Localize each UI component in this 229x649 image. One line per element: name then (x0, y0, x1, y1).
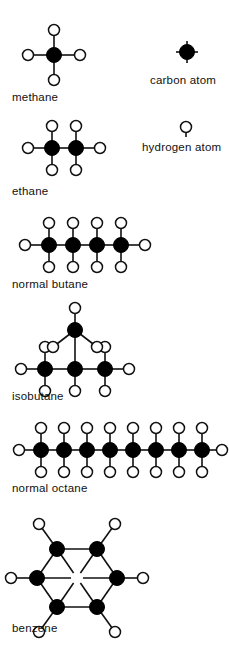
hydrogen-atom (174, 423, 185, 434)
hydrogen-atom (82, 467, 93, 478)
hydrogen-atom (59, 467, 70, 478)
hydrogen-atom (48, 342, 59, 353)
molecule-label: normal octane (12, 482, 87, 494)
carbon-atom (69, 141, 84, 156)
carbon-atom (180, 45, 195, 60)
hydrogen-atom (140, 240, 151, 251)
hydrogen-atom (105, 423, 116, 434)
carbon-atom (34, 443, 49, 458)
legend-carbon-label: carbon atom (150, 74, 216, 86)
carbon-atom (114, 238, 129, 253)
carbon-atom (90, 542, 105, 557)
hydrogen-atom (138, 573, 149, 584)
bond-group (28, 126, 100, 170)
hydrogen-atom (36, 467, 47, 478)
carbon-atom (172, 443, 187, 458)
hydrogen-atom (116, 218, 127, 229)
hydrogen-atom (128, 423, 139, 434)
legend-hydrogen: hydrogen atom (142, 122, 221, 154)
hydrogen-atom (44, 218, 55, 229)
legend-hydrogen-label: hydrogen atom (142, 141, 221, 153)
hydrogen-atom (95, 143, 106, 154)
molecule-ethane: ethane (12, 121, 106, 198)
legend-carbon: carbon atom (150, 41, 216, 86)
carbon-atom (149, 443, 164, 458)
hydrocarbon-diagram: methaneethanenormal butaneisobutanenorma… (0, 0, 229, 649)
hydrogen-atom (75, 50, 86, 61)
carbon-atom (38, 362, 53, 377)
hydrogen-atom (20, 240, 31, 251)
hydrogen-atom (110, 627, 121, 638)
hydrogen-atom (92, 342, 103, 353)
hydrogen-atom (197, 467, 208, 478)
carbon-atom (45, 141, 60, 156)
molecule-normal-octane: normal octane (12, 423, 228, 495)
hydrogen-atom (71, 165, 82, 176)
molecule-methane: methane (12, 25, 86, 104)
carbon-atom (80, 443, 95, 458)
hydrogen-atom (128, 467, 139, 478)
carbon-atom (68, 362, 83, 377)
carbon-atom (110, 571, 125, 586)
molecule-label: ethane (12, 185, 48, 197)
carbon-atom (98, 362, 113, 377)
carbon-atom (103, 443, 118, 458)
hydrogen-atom (116, 262, 127, 273)
hydrogen-atom (36, 423, 47, 434)
carbon-atom (68, 323, 83, 338)
hydrogen-atom (70, 303, 81, 314)
hydrogen-atom (151, 467, 162, 478)
molecule-label: isobutane (12, 390, 64, 402)
carbon-atom (57, 443, 72, 458)
hydrogen-atom (71, 121, 82, 132)
hydrogen-atom (151, 423, 162, 434)
hydrogen-atom (49, 75, 60, 86)
hydrogen-atom (44, 262, 55, 273)
bond-group (21, 308, 129, 391)
hydrogen-atom (82, 423, 93, 434)
hydrogen-atom (92, 218, 103, 229)
carbon-atom (30, 571, 45, 586)
molecules-layer: methaneethanenormal butaneisobutanenorma… (6, 25, 228, 638)
molecule-label: benzene (12, 622, 58, 634)
hydrogen-atom (92, 262, 103, 273)
molecule-label: methane (12, 91, 58, 103)
hydrogen-atom (34, 519, 45, 530)
carbon-atom (47, 48, 62, 63)
molecule-isobutane: isobutane (12, 303, 135, 403)
hydrogen-atom (110, 519, 121, 530)
hydrogen-atom (47, 165, 58, 176)
carbon-atom (50, 600, 65, 615)
carbon-atom (66, 238, 81, 253)
hydrogen-atom (174, 467, 185, 478)
hydrogen-atom (217, 445, 228, 456)
hydrogen-atom (14, 445, 25, 456)
carbon-atom (90, 238, 105, 253)
hydrogen-atom (70, 386, 81, 397)
molecule-label: normal butane (12, 278, 88, 290)
carbon-atom (195, 443, 210, 458)
hydrogen-atom (100, 386, 111, 397)
molecule-benzene: benzene (6, 519, 149, 638)
hydrogen-atom (6, 573, 17, 584)
molecule-canvas: methaneethanenormal butaneisobutanenorma… (0, 0, 229, 649)
legend-layer: carbon atomhydrogen atom (142, 41, 221, 153)
hydrogen-atom (23, 143, 34, 154)
hydrogen-atom (16, 364, 27, 375)
hydrogen-atom (105, 467, 116, 478)
hydrogen-atom (23, 50, 34, 61)
hydrogen-atom (68, 262, 79, 273)
hydrogen-atom (124, 364, 135, 375)
carbon-atom (42, 238, 57, 253)
carbon-atom (126, 443, 141, 458)
hydrogen-atom (181, 122, 192, 133)
hydrogen-atom (197, 423, 208, 434)
hydrogen-atom (68, 218, 79, 229)
bond-group (19, 428, 222, 472)
hydrogen-atom (49, 25, 60, 36)
molecule-normal-butane: normal butane (12, 218, 151, 291)
carbon-atom (50, 542, 65, 557)
hydrogen-atom (59, 423, 70, 434)
hydrogen-atom (47, 121, 58, 132)
carbon-atom (90, 600, 105, 615)
